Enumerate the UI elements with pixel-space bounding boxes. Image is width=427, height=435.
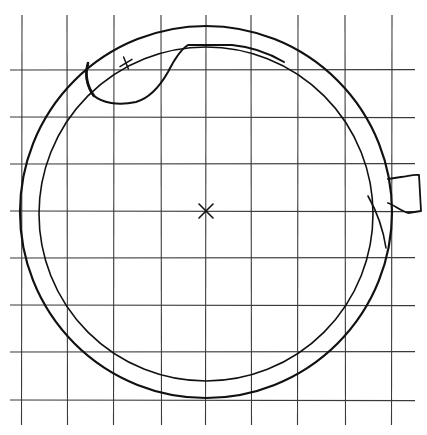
- grid-line-horizontal: [10, 400, 415, 401]
- grid-line-vertical: [161, 15, 162, 425]
- grid-lines: [10, 15, 415, 425]
- ring-diagram: [0, 0, 427, 435]
- grid-line-vertical: [251, 15, 252, 425]
- grid-line-vertical: [298, 15, 299, 425]
- grid-line-vertical: [22, 15, 23, 425]
- grid-line-vertical: [114, 15, 115, 425]
- grid-line-vertical: [206, 15, 207, 425]
- grid-line-vertical: [67, 15, 68, 425]
- grid-line-horizontal: [10, 211, 415, 212]
- grid-line-vertical: [345, 15, 346, 425]
- diagram-canvas: [0, 0, 427, 435]
- grid-line-horizontal: [10, 305, 415, 306]
